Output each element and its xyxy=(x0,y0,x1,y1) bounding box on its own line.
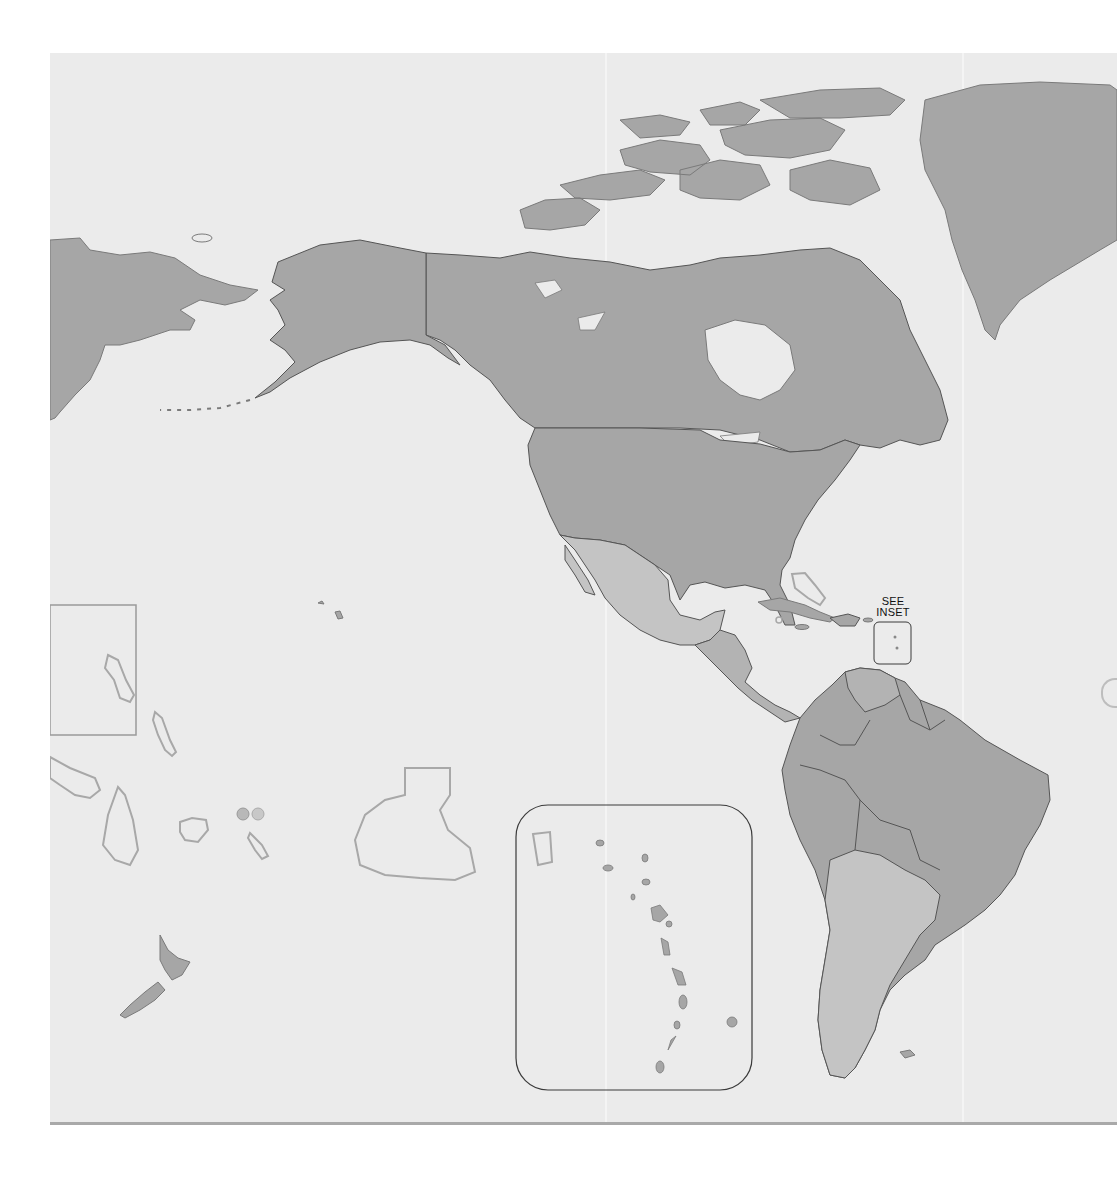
puerto-rico xyxy=(863,618,873,622)
hispaniola xyxy=(830,614,860,626)
bahamas-outline xyxy=(792,573,825,605)
greenland xyxy=(920,82,1117,340)
hawaii-islands xyxy=(318,601,343,619)
map-frame: SEE INSET xyxy=(50,53,1117,1125)
see-inset-box xyxy=(874,622,911,664)
map-canvas xyxy=(50,53,1117,1125)
inset-locator xyxy=(533,832,552,865)
island-circle-b xyxy=(252,808,264,820)
aleutian-islands xyxy=(160,400,250,410)
island-outline-1 xyxy=(105,655,134,702)
inset-locator-dot xyxy=(894,636,897,639)
island-outline-5 xyxy=(180,818,208,842)
jamaica xyxy=(795,625,809,630)
lesser-antilles xyxy=(596,840,737,1073)
united-states xyxy=(528,428,860,625)
argentina-chile xyxy=(818,850,940,1078)
island-circle-a xyxy=(237,808,249,820)
cayman-islands xyxy=(776,617,782,623)
falkland-islands xyxy=(900,1050,915,1058)
see-inset-label-line2: INSET xyxy=(868,607,918,618)
new-zealand xyxy=(120,935,190,1018)
island-outline-6 xyxy=(248,833,268,859)
russia-far-east xyxy=(50,238,258,420)
inset-locator-dot xyxy=(896,647,899,650)
pacific-inset-box xyxy=(50,605,136,735)
island-outline-3 xyxy=(50,757,100,798)
island-outline-4 xyxy=(103,787,138,865)
wrangel-island xyxy=(192,234,212,242)
french-polynesia-outline xyxy=(355,768,475,880)
arctic-islands xyxy=(520,88,905,230)
canada xyxy=(426,248,948,452)
island-outline-2 xyxy=(153,712,176,756)
central-america xyxy=(695,630,800,722)
see-inset-label: SEE INSET xyxy=(868,596,918,618)
